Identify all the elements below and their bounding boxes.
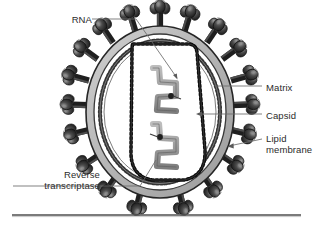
bottom-rule [12,215,301,217]
label-lipid-membrane-line1: Lipid [266,133,324,144]
label-rna: RNA [40,14,92,25]
figure-canvas: RNA Reverse transcriptase Matrix Capsid … [0,0,329,228]
label-reverse-transcriptase: Reverse transcriptase [8,169,100,191]
label-capsid: Capsid [266,110,296,121]
label-lipid-membrane-line2: membrane [266,144,324,155]
label-reverse-transcriptase-line1: Reverse [8,169,100,180]
label-matrix: Matrix [266,82,292,93]
label-reverse-transcriptase-line2: transcriptase [8,180,100,191]
label-lipid-membrane: Lipid membrane [266,133,324,155]
